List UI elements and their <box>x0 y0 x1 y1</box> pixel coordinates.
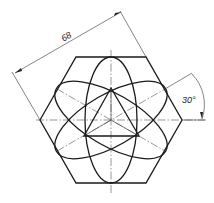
extension-line-left <box>12 72 40 120</box>
dimension-label: 68 <box>60 30 74 44</box>
angle-extension-line <box>165 73 192 89</box>
inner-triangle <box>84 88 139 136</box>
arrow-left <box>15 68 22 73</box>
angle-label: 30° <box>182 95 196 105</box>
dimension-line <box>15 12 121 73</box>
technical-drawing: 68 30° <box>0 0 214 203</box>
extension-line-right <box>120 11 146 57</box>
